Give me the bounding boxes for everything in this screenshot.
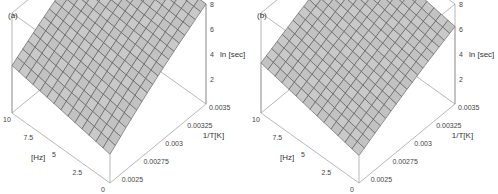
temp-tick-label: 0.0025 — [122, 176, 144, 183]
surface-plot-b-canvas: (b)02.557.510[Hz]0.00250.002750.0030.003… — [249, 0, 498, 194]
hz-tick-label: 5 — [301, 151, 305, 158]
temp-tick-label: 0.00325 — [436, 122, 461, 129]
hz-tick-label: 10 — [3, 116, 11, 123]
temp-tick-label: 0.0025 — [371, 176, 393, 183]
temp-tick-label: 0.00275 — [143, 158, 168, 165]
temp-tick-label: 0.00275 — [392, 158, 417, 165]
hz-tick-label: 2.5 — [322, 169, 332, 176]
surface-mesh — [261, 0, 455, 156]
z-tick-label: 8 — [459, 1, 463, 8]
z-axis-label: ln [sec] — [469, 50, 494, 59]
hz-tick-label: 0 — [350, 186, 354, 193]
surface-plot-a: (a)02.557.510[Hz]0.00250.002750.0030.003… — [0, 0, 249, 194]
panel-label: (b) — [257, 11, 267, 20]
hz-tick-label: 10 — [252, 116, 260, 123]
z-tick-label: 6 — [459, 26, 463, 33]
surface-mesh — [12, 0, 206, 154]
temp-tick-label: 0.003 — [165, 140, 183, 147]
surface-plot-a-canvas: (a)02.557.510[Hz]0.00250.002750.0030.003… — [0, 0, 249, 194]
hz-tick-label: 7.5 — [24, 134, 34, 141]
temp-axis-label: 1/T[K] — [203, 131, 224, 140]
z-tick-label: 4 — [210, 51, 214, 58]
panel-label: (a) — [8, 11, 18, 20]
z-tick-label: 4 — [459, 51, 463, 58]
hz-tick-label: 7.5 — [273, 134, 283, 141]
temp-axis-label: 1/T[K] — [452, 131, 473, 140]
hz-axis-label: [Hz] — [31, 153, 45, 162]
temp-tick-label: 0.003 — [414, 140, 432, 147]
hz-axis-label: [Hz] — [280, 153, 294, 162]
temp-tick-label: 0.0035 — [209, 104, 231, 111]
hz-tick-label: 5 — [52, 151, 56, 158]
z-axis-label: ln [sec] — [220, 50, 245, 59]
z-tick-label: 2 — [210, 76, 214, 83]
hz-tick-label: 2.5 — [73, 169, 83, 176]
z-tick-label: 2 — [459, 76, 463, 83]
surface-plot-b: (b)02.557.510[Hz]0.00250.002750.0030.003… — [249, 0, 498, 194]
hz-tick-label: 0 — [101, 186, 105, 193]
z-tick-label: 6 — [210, 26, 214, 33]
z-tick-label: 8 — [210, 1, 214, 8]
temp-tick-label: 0.00325 — [187, 122, 212, 129]
temp-tick-label: 0.0035 — [458, 104, 480, 111]
